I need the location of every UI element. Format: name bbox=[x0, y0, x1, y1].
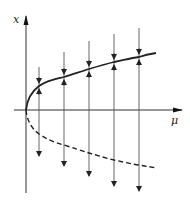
stable-branch bbox=[26, 53, 156, 110]
bifurcation-diagram: x μ bbox=[0, 0, 190, 202]
x-axis-label: x bbox=[13, 13, 20, 26]
mu-axis-label: μ bbox=[171, 114, 178, 127]
unstable-branch bbox=[26, 110, 157, 168]
